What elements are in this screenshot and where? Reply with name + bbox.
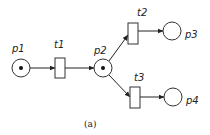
place-p1 <box>12 59 30 77</box>
transition-t2 <box>128 23 138 44</box>
transition-t1 <box>55 58 65 78</box>
transition-t3 <box>130 87 140 108</box>
place-label-p4: p4 <box>185 95 199 106</box>
transition-label-t3: t3 <box>134 72 144 83</box>
transition-label-t2: t2 <box>137 7 147 18</box>
place-label-p1: p1 <box>11 43 25 54</box>
place-p4 <box>164 88 182 106</box>
arc-p2-t2 <box>109 35 128 61</box>
arc-p2-t3 <box>109 75 130 97</box>
place-p3 <box>163 22 181 40</box>
token-icon <box>101 66 105 70</box>
petri-net-diagram: p1 t1 p2 t2 p3 t3 p4 (a) <box>0 0 210 135</box>
transition-label-t1: t1 <box>54 39 64 50</box>
figure-caption: (a) <box>84 119 96 129</box>
place-label-p3: p3 <box>184 29 198 40</box>
place-label-p2: p2 <box>93 45 107 56</box>
token-icon <box>19 66 23 70</box>
place-p2 <box>94 59 112 77</box>
